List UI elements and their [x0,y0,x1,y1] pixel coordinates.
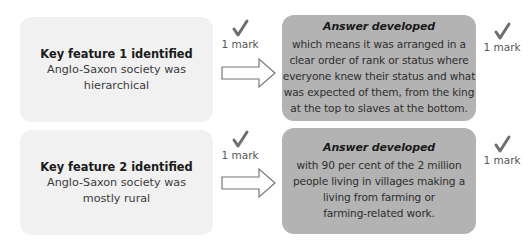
check-icon [477,21,527,41]
key-feature-2-box: Key feature 2 identified Anglo-Saxon soc… [20,130,213,235]
check-icon [477,134,527,154]
answer-developed-2-box: Answer developed with 90 per cent of the… [282,128,476,234]
feature-1-mark-label: 1 mark [215,38,265,50]
feature-2-mark: 1 mark [215,129,265,161]
feature-1-mark: 1 mark [215,18,265,50]
check-icon [215,18,265,38]
answer-developed-2-text: with 90 per cent of the 2 million people… [293,157,465,222]
answer-1-mark-label: 1 mark [477,41,527,53]
key-feature-2-text: Anglo-Saxon society was mostly rural [47,175,186,207]
answer-2-mark: 1 mark [477,134,527,166]
key-feature-1-title: Key feature 1 identified [40,46,192,62]
feature-2-mark-label: 1 mark [215,149,265,161]
right-arrow-icon [221,167,277,199]
answer-developed-1-title: Answer developed [323,19,435,35]
answer-1-mark: 1 mark [477,21,527,53]
right-arrow-icon [221,57,277,89]
key-feature-2-title: Key feature 2 identified [40,159,192,175]
answer-2-mark-label: 1 mark [477,154,527,166]
answer-developed-2-title: Answer developed [323,140,435,156]
answer-developed-1-text: which means it was arranged in a clear o… [283,36,475,117]
key-feature-1-box: Key feature 1 identified Anglo-Saxon soc… [20,17,213,122]
check-icon [215,129,265,149]
key-feature-1-text: Anglo-Saxon society was hierarchical [47,62,186,94]
answer-developed-1-box: Answer developed which means it was arra… [282,15,476,121]
